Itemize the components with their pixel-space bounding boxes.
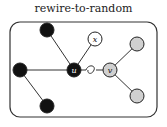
node-c [40, 99, 54, 113]
node-a [40, 23, 54, 37]
label-v: v [108, 66, 113, 75]
label-x: x [93, 35, 98, 44]
node-d [130, 37, 144, 51]
broken-edge-loop [86, 66, 94, 74]
node-e [130, 89, 144, 103]
node-b [13, 63, 27, 77]
label-u: u [71, 66, 76, 75]
graph-diagram: u x v [0, 0, 167, 127]
nodes [13, 23, 144, 113]
